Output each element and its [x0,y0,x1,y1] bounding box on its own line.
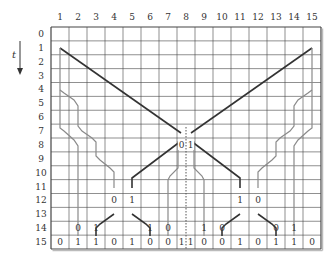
row-label: 15 [35,237,47,247]
time-axis: t [12,41,23,75]
cell-value: 1 [93,237,99,247]
grid [51,27,323,251]
cell-value: 1 [147,223,153,233]
row-label: 13 [35,209,47,219]
cell-value: 0 [165,223,171,233]
cell-value: 1 [179,237,185,247]
column-label: 12 [252,12,263,22]
cell-value: 0 [309,237,315,247]
row-label: 9 [38,154,44,164]
signal-propagation-grid: t 123456789101112131415 0123456789101112… [0,0,335,269]
cell-value: 0 [57,237,63,247]
cell-value: 1 [201,223,207,233]
column-label: 6 [147,12,153,22]
cell-value: 0 [201,237,207,247]
cell-value: 0 [75,223,81,233]
cell-value: 0 [165,237,171,247]
cell-value: 1 [188,237,194,247]
row-label: 4 [38,84,44,94]
row-label: 12 [35,195,46,205]
column-label: 13 [270,12,282,22]
row-label: 3 [38,71,44,81]
row-label: 1 [38,43,44,53]
cell-value: 1 [129,237,135,247]
cell-value: 1 [93,223,99,233]
column-label: 9 [201,12,207,22]
column-label: 15 [306,12,318,22]
column-label: 14 [288,12,300,22]
cell-value: 0 [219,223,225,233]
column-label: 7 [165,12,171,22]
left-lower-branch-path [132,141,181,188]
column-label: 1 [57,12,63,22]
time-axis-label: t [12,49,17,60]
cell-value: 0 [273,223,279,233]
cell-value: 1 [291,237,297,247]
cell-value: 0 [147,237,153,247]
column-label: 3 [93,12,99,22]
cell-value: 1 [129,195,135,205]
column-label: 8 [183,12,189,22]
cell-value: 1 [291,223,297,233]
cell-value: 1 [188,140,194,150]
row-label: 14 [35,223,47,233]
row-label: 2 [38,57,44,67]
cell-value: 1 [273,237,279,247]
column-label: 2 [75,12,81,22]
column-label: 5 [129,12,135,22]
cell-value: 0 [255,195,261,205]
arrowhead-icon [17,68,23,75]
row-label: 7 [38,126,44,136]
cell-value: 0 [111,237,117,247]
row-label: 5 [38,98,44,108]
row-label: 10 [35,168,47,178]
cell-value: 1 [75,237,81,247]
row-label: 0 [38,29,44,39]
column-label: 4 [111,12,117,22]
cell-value: 0 [255,237,261,247]
column-label: 10 [216,12,228,22]
center-left-branch [168,141,178,236]
center-right-branch [194,141,204,236]
cell-value: 0 [111,195,117,205]
cell-value: 1 [237,195,243,205]
column-labels: 123456789101112131415 [57,12,318,22]
row-label: 6 [38,112,44,122]
cell-value: 0 [179,140,185,150]
row-label: 11 [35,182,46,192]
row-labels: 0123456789101112131415 [35,29,47,247]
column-label: 11 [234,12,245,22]
row-label: 8 [38,140,44,150]
cell-value: 0 [219,237,225,247]
right-lower-branch-path [191,141,240,188]
cell-value: 1 [237,237,243,247]
